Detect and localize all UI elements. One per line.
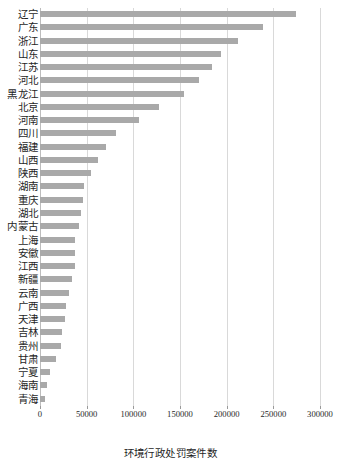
bar-row	[40, 194, 320, 207]
bar	[40, 329, 62, 335]
bar-row	[40, 127, 320, 140]
bar-row	[40, 180, 320, 193]
bar	[40, 24, 263, 30]
bar-row	[40, 393, 320, 406]
gridline	[320, 8, 321, 406]
bar	[40, 343, 61, 349]
x-axis-tick-labels: 050000100000150000200000250000300000	[0, 409, 341, 425]
category-label: 北京	[18, 101, 38, 114]
category-label: 宁夏	[18, 366, 38, 379]
category-label: 天津	[18, 313, 38, 326]
bar	[40, 144, 106, 150]
category-label: 贵州	[18, 340, 38, 353]
category-label: 重庆	[18, 194, 38, 207]
x-tick-label: 50000	[76, 409, 97, 419]
x-tick-label: 100000	[120, 409, 146, 419]
bar-row	[40, 287, 320, 300]
bar-row	[40, 167, 320, 180]
bar-row	[40, 326, 320, 339]
category-label: 山西	[18, 154, 38, 167]
bar-row	[40, 234, 320, 247]
bar-row	[40, 74, 320, 87]
bar-row	[40, 379, 320, 392]
x-axis-title: 环境行政处罚案件数	[0, 445, 341, 460]
plot-area	[40, 8, 320, 406]
bar-row	[40, 48, 320, 61]
bar-row	[40, 88, 320, 101]
category-label: 辽宁	[18, 8, 38, 21]
bar	[40, 117, 139, 123]
bar-row	[40, 207, 320, 220]
category-label: 湖南	[18, 180, 38, 193]
category-label: 安徽	[18, 247, 38, 260]
category-label: 河北	[18, 74, 38, 87]
bar-chart: 辽宁广东浙江山东江苏河北黑龙江北京河南四川福建山西陕西湖南重庆湖北内蒙古上海安徽…	[0, 0, 341, 473]
bar	[40, 104, 159, 110]
bar	[40, 38, 238, 44]
category-label: 江苏	[18, 61, 38, 74]
bar	[40, 223, 79, 229]
bar	[40, 382, 47, 388]
category-label: 甘肃	[18, 353, 38, 366]
bar	[40, 183, 84, 189]
bar	[40, 237, 75, 243]
x-tick-label: 300000	[307, 409, 333, 419]
bar	[40, 290, 69, 296]
category-axis-labels: 辽宁广东浙江山东江苏河北黑龙江北京河南四川福建山西陕西湖南重庆湖北内蒙古上海安徽…	[0, 8, 38, 406]
bar-row	[40, 35, 320, 48]
bar-row	[40, 220, 320, 233]
bar	[40, 250, 75, 256]
bar-row	[40, 340, 320, 353]
category-label: 广西	[18, 300, 38, 313]
category-label: 湖北	[18, 207, 38, 220]
bar	[40, 130, 116, 136]
bar	[40, 369, 50, 375]
bar-row	[40, 300, 320, 313]
category-label: 河南	[18, 114, 38, 127]
bar	[40, 316, 65, 322]
bar-row	[40, 260, 320, 273]
category-label: 吉林	[18, 326, 38, 339]
category-label: 云南	[18, 287, 38, 300]
category-label: 福建	[18, 141, 38, 154]
category-label: 海南	[18, 379, 38, 392]
bar-row	[40, 101, 320, 114]
x-tick-label: 0	[38, 409, 42, 419]
x-tick-label: 150000	[167, 409, 193, 419]
category-label: 浙江	[18, 35, 38, 48]
bar	[40, 91, 184, 97]
category-label: 陕西	[18, 167, 38, 180]
bar-row	[40, 273, 320, 286]
category-label: 上海	[18, 234, 38, 247]
bar	[40, 356, 56, 362]
bar	[40, 64, 212, 70]
bar-row	[40, 247, 320, 260]
category-label: 新疆	[18, 273, 38, 286]
category-label: 江西	[18, 260, 38, 273]
category-label: 广东	[18, 21, 38, 34]
x-tick-label: 250000	[260, 409, 286, 419]
category-label: 青海	[18, 393, 38, 406]
bar	[40, 276, 72, 282]
bar	[40, 77, 199, 83]
bar-row	[40, 8, 320, 21]
bar	[40, 51, 221, 57]
bar-row	[40, 21, 320, 34]
bar-row	[40, 61, 320, 74]
category-label: 内蒙古	[7, 220, 38, 233]
x-tick-label: 200000	[214, 409, 240, 419]
bar	[40, 303, 66, 309]
bar-row	[40, 154, 320, 167]
bar-series	[40, 8, 320, 406]
bar-row	[40, 313, 320, 326]
bar	[40, 396, 45, 402]
bar	[40, 11, 296, 17]
category-label: 四川	[18, 127, 38, 140]
bar	[40, 157, 98, 163]
bar-row	[40, 366, 320, 379]
bar	[40, 210, 81, 216]
category-label: 黑龙江	[7, 88, 38, 101]
category-label: 山东	[18, 48, 38, 61]
bar-row	[40, 141, 320, 154]
bar	[40, 170, 91, 176]
